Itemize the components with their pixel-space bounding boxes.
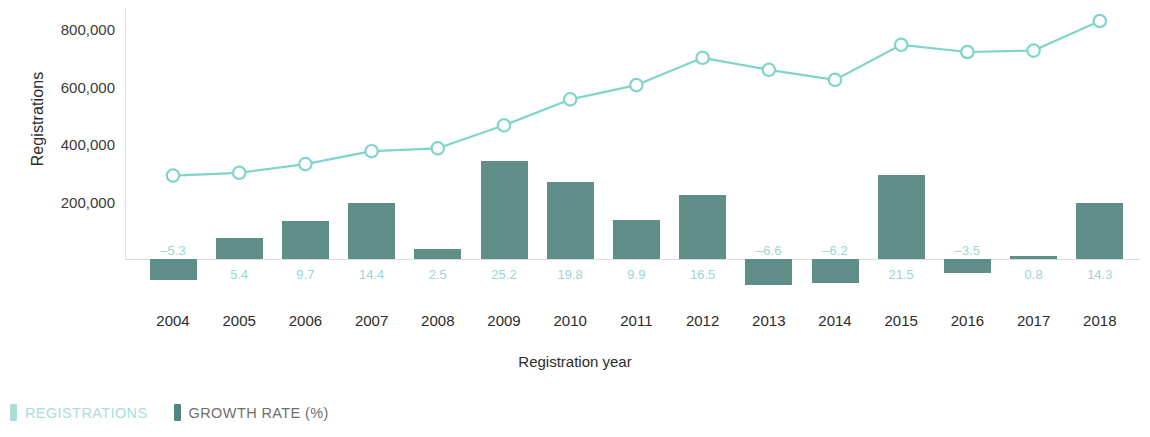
line-marker xyxy=(1094,15,1106,27)
chart-legend: REGISTRATIONS GROWTH RATE (%) xyxy=(10,404,329,421)
bar xyxy=(282,221,329,259)
legend-label-registrations: REGISTRATIONS xyxy=(25,405,148,421)
bar xyxy=(1010,256,1057,259)
bar-value-label: 25.2 xyxy=(469,268,539,281)
bar-value-label: –3.5 xyxy=(932,244,1002,257)
x-axis-title: Registration year xyxy=(0,353,1150,370)
legend-swatch-growth-rate xyxy=(174,404,181,421)
bar-value-label: 9.7 xyxy=(270,268,340,281)
line-marker xyxy=(233,167,245,179)
bar xyxy=(414,249,461,259)
bar xyxy=(878,175,925,259)
line-marker xyxy=(167,169,179,181)
bar-value-label: –6.2 xyxy=(800,244,870,257)
x-axis-tick-label: 2018 xyxy=(1060,312,1140,329)
y-axis-line xyxy=(125,8,126,260)
y-axis-tick-label: 800,000 xyxy=(23,22,115,37)
line-marker xyxy=(1027,44,1039,56)
bar xyxy=(348,203,395,259)
bar xyxy=(944,259,991,273)
bar xyxy=(613,220,660,259)
y-axis-title: Registrations xyxy=(29,29,47,209)
line-marker xyxy=(498,119,510,131)
line-marker xyxy=(829,74,841,86)
line-marker xyxy=(961,46,973,58)
bar-value-label: 14.3 xyxy=(1065,268,1135,281)
legend-item-growth-rate[interactable]: GROWTH RATE (%) xyxy=(174,404,329,421)
line-marker xyxy=(895,39,907,51)
bar-value-label: 0.8 xyxy=(999,268,1069,281)
plot-area xyxy=(125,8,1140,260)
bar-value-label: 5.4 xyxy=(204,268,274,281)
registrations-growth-combo-chart: Registrations 200,000400,000600,000800,0… xyxy=(0,0,1150,437)
y-axis-tick-label: 600,000 xyxy=(23,80,115,95)
line-marker xyxy=(299,158,311,170)
bar xyxy=(1076,203,1123,259)
bar xyxy=(481,161,528,259)
bar xyxy=(745,259,792,285)
line-marker xyxy=(432,142,444,154)
line-marker xyxy=(696,52,708,64)
bar xyxy=(812,259,859,283)
bar-value-label: 19.8 xyxy=(535,268,605,281)
bar-value-label: 9.9 xyxy=(601,268,671,281)
bar xyxy=(216,238,263,259)
bar xyxy=(547,182,594,259)
bar-value-label: 14.4 xyxy=(337,268,407,281)
line-marker xyxy=(763,64,775,76)
line-marker xyxy=(630,79,642,91)
legend-label-growth-rate: GROWTH RATE (%) xyxy=(189,405,329,421)
y-axis-tick-label: 200,000 xyxy=(23,195,115,210)
y-axis-tick-label: 400,000 xyxy=(23,137,115,152)
line-path-registrations xyxy=(173,21,1100,176)
legend-swatch-registrations xyxy=(10,404,17,421)
bar-value-label: 21.5 xyxy=(866,268,936,281)
bar xyxy=(150,259,197,280)
bar-value-label: 2.5 xyxy=(403,268,473,281)
bar-value-label: 16.5 xyxy=(668,268,738,281)
bar-value-label: –5.3 xyxy=(138,244,208,257)
bar xyxy=(679,195,726,259)
line-marker xyxy=(365,145,377,157)
legend-item-registrations[interactable]: REGISTRATIONS xyxy=(10,404,148,421)
bar-value-label: –6.6 xyxy=(734,244,804,257)
line-marker xyxy=(564,93,576,105)
